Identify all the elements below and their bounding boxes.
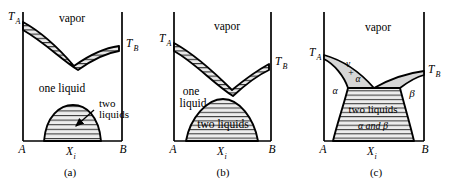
vapor-liquid-lens-a <box>23 22 119 70</box>
temp-a-subscript-b: A <box>166 39 172 48</box>
two-liquids-dome-a <box>44 105 101 141</box>
temp-b-subscript-a: B <box>134 44 139 53</box>
vapor-plus-alpha-line2-c: + <box>348 68 353 78</box>
two-liquids-label-line1-c: two liquids <box>348 103 397 115</box>
alpha-label-c: α <box>332 85 338 96</box>
temp-b-label-a: T B <box>126 37 139 53</box>
panel-a: vapor one liquid two liquids T A T B A B… <box>0 0 150 184</box>
panel-caption-c: (c) <box>356 166 396 178</box>
panel-c-svg: vapor v + α α β two liquids α and β T A … <box>300 0 449 184</box>
vapor-label-c: vapor <box>365 21 391 34</box>
two-liquids-label-line2-c: α and β <box>358 120 388 131</box>
composition-subscript-a: i <box>74 152 76 161</box>
temp-b-label-c: T B <box>428 63 441 79</box>
vapor-label-b: vapor <box>214 20 240 33</box>
axis-left-endpoint-label-b: A <box>168 143 177 155</box>
axis-left-endpoint-label-c: A <box>318 143 327 155</box>
phase-diagram-figure: vapor one liquid two liquids T A T B A B… <box>0 0 449 184</box>
composition-subscript-b: i <box>225 152 227 161</box>
two-liquids-label-b: two liquids <box>197 118 249 131</box>
panel-b-svg: vapor one liquid two liquids T A T B A B… <box>150 0 300 184</box>
composition-axis-label-b: X i <box>216 145 227 161</box>
vapor-label-a: vapor <box>59 12 85 25</box>
panel-b: vapor one liquid two liquids T A T B A B… <box>150 0 300 184</box>
temp-a-label-b: T A <box>159 32 172 48</box>
one-liquid-label-line1-b: one <box>183 85 200 97</box>
panel-c: vapor v + α α β two liquids α and β T A … <box>300 0 449 184</box>
composition-axis-label-c: X i <box>366 145 377 161</box>
temp-b-subscript-b: B <box>283 62 288 71</box>
axis-left-endpoint-label-a: A <box>17 143 26 155</box>
vapor-plus-beta-wedge-c <box>374 71 424 88</box>
composition-axis-label-a: X i <box>65 145 76 161</box>
two-liquids-label-line2-a: liquids <box>99 108 129 120</box>
axis-right-endpoint-label-b: B <box>268 143 275 155</box>
axis-right-endpoint-label-a: B <box>119 143 126 155</box>
temp-b-label-b: T B <box>275 55 288 71</box>
axis-right-endpoint-label-c: B <box>421 143 428 155</box>
temp-b-subscript-c: B <box>436 70 441 79</box>
temp-a-subscript-a: A <box>15 17 21 26</box>
composition-subscript-c: i <box>375 152 377 161</box>
beta-label-c: β <box>408 87 415 99</box>
one-liquid-label-a: one liquid <box>39 82 86 95</box>
panel-caption-b: (b) <box>203 166 243 178</box>
temp-a-subscript-c: A <box>316 53 322 62</box>
temp-a-label-a: T A <box>8 10 21 26</box>
one-liquid-label-line2-b: liquid <box>180 97 207 110</box>
panel-a-svg: vapor one liquid two liquids T A T B A B… <box>0 0 150 184</box>
panel-caption-a: (a) <box>50 166 90 178</box>
temp-a-label-c: T A <box>309 46 322 62</box>
